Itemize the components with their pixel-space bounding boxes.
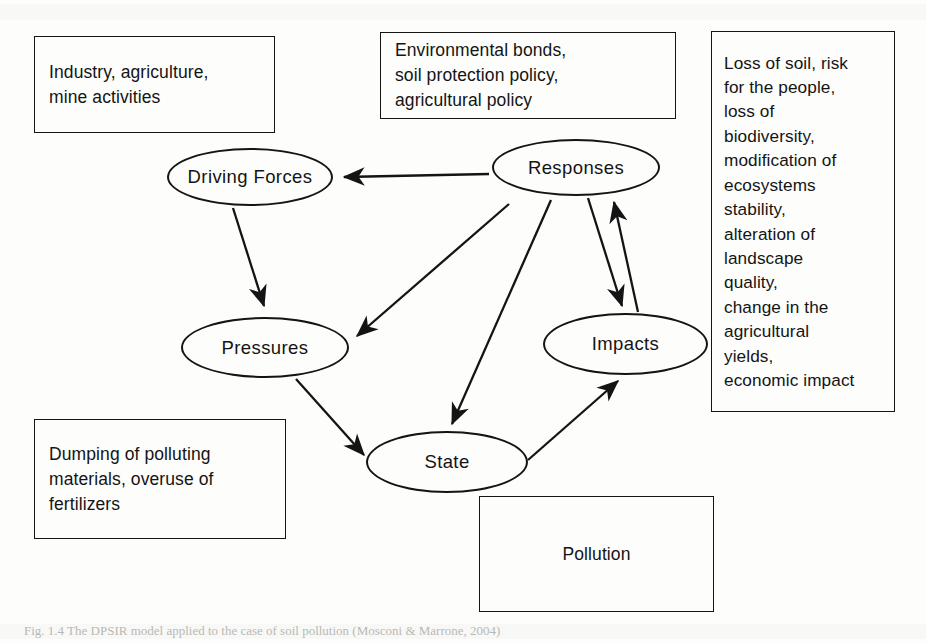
node-impacts-label: Impacts: [592, 333, 660, 355]
note-driving-forces-text: Industry, agriculture, mine activities: [35, 60, 218, 110]
edge-driving-forces-to-pressures: [233, 208, 264, 306]
note-pressures-text: Dumping of polluting materials, overuse …: [35, 442, 224, 517]
note-pollution-text: Pollution: [480, 542, 713, 567]
node-responses-label: Responses: [528, 157, 624, 179]
edge-pressures-to-state: [296, 379, 364, 455]
node-state: State: [366, 431, 528, 493]
edge-impacts-to-responses: [614, 202, 638, 312]
node-responses: Responses: [492, 139, 660, 196]
dpsir-diagram: Industry, agriculture, mine activities E…: [0, 0, 926, 616]
edge-responses-to-state: [452, 200, 551, 424]
figure-page: Industry, agriculture, mine activities E…: [0, 0, 926, 643]
figure-caption: Fig. 1.4 The DPSIR model applied to the …: [24, 623, 904, 643]
edge-responses-to-impacts: [588, 198, 622, 306]
edge-state-to-impacts: [528, 381, 618, 460]
note-impacts: Loss of soil, risk for the people, loss …: [711, 31, 895, 412]
note-pollution: Pollution: [479, 496, 714, 612]
note-pressures: Dumping of polluting materials, overuse …: [34, 419, 286, 539]
edge-responses-to-pressures: [357, 204, 509, 336]
node-impacts: Impacts: [543, 313, 708, 375]
note-driving-forces: Industry, agriculture, mine activities: [34, 36, 275, 133]
note-responses-text: Environmental bonds, soil protection pol…: [381, 38, 576, 113]
edge-responses-to-driving-forces: [344, 174, 489, 177]
node-driving-forces: Driving Forces: [167, 148, 333, 206]
node-driving-forces-label: Driving Forces: [188, 166, 313, 188]
note-impacts-text: Loss of soil, risk for the people, loss …: [712, 51, 864, 393]
node-state-label: State: [424, 451, 469, 473]
node-pressures-label: Pressures: [222, 337, 309, 359]
note-responses: Environmental bonds, soil protection pol…: [380, 32, 676, 119]
node-pressures: Pressures: [181, 317, 349, 378]
